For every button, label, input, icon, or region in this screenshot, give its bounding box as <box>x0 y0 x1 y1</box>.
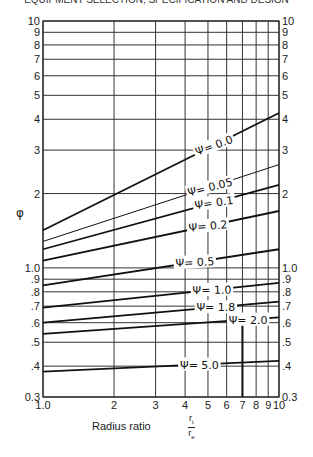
y-tick-label-left: 4 <box>34 113 40 125</box>
y-tick-label-right: .6 <box>282 317 291 329</box>
y-tick-label-right: 8 <box>282 39 288 51</box>
curve-label-text: Ψ= 1.0 <box>192 284 231 298</box>
curve-label: Ψ= 2.0 <box>227 313 269 327</box>
y-tick-label-right: .5 <box>282 336 291 348</box>
x-tick-label: 3 <box>153 399 159 411</box>
curve-label-text: Ψ= 0.2 <box>188 218 228 234</box>
y-tick-label-left: 3 <box>34 144 40 156</box>
x-tick-label: 4 <box>182 399 188 411</box>
fraction-denominator: re <box>188 428 195 442</box>
y-tick-label-right: 4 <box>282 113 288 125</box>
curve-label: Ψ= 1.0 <box>191 283 234 298</box>
y-tick-label-right: 7 <box>282 53 288 65</box>
plot-frame <box>43 21 279 397</box>
curve-label: Ψ= 1.8 <box>195 300 237 314</box>
y-tick-label-left: 2 <box>34 188 40 200</box>
y-tick-label-left: .9 <box>31 273 40 285</box>
y-tick-label-left: .4 <box>31 360 40 372</box>
curve-label: Ψ= 5.0 <box>178 358 220 372</box>
x-tick-label: 5 <box>205 399 211 411</box>
curve-psi-0.5 <box>43 249 279 285</box>
x-tick-label: 6 <box>224 399 230 411</box>
y-tick-label-left: .7 <box>31 300 40 312</box>
y-tick-label-right: 2 <box>282 188 288 200</box>
y-tick-label-left: 8 <box>34 39 40 51</box>
y-tick-label-right: .4 <box>282 360 291 372</box>
y-tick-label-right: 6 <box>282 70 288 82</box>
x-tick-label: 2 <box>111 399 117 411</box>
phi-vs-radius-ratio-chart: 1.02345678910101099887766554433221.01.0.… <box>0 0 313 457</box>
y-tick-label-left: 0.3 <box>25 391 40 403</box>
y-tick-label-left: 6 <box>34 70 40 82</box>
curve-psi-0.2 <box>43 211 279 261</box>
y-tick-label-right: 9 <box>282 26 288 38</box>
fraction-numerator: rt <box>188 413 195 428</box>
y-tick-label-left: 7 <box>34 53 40 65</box>
curve-label-text: Ψ= 5.0 <box>180 359 219 372</box>
y-tick-label-right: 0.3 <box>282 391 297 403</box>
curve-label-text: Ψ= 2.0 <box>229 314 268 327</box>
y-tick-label-left: .6 <box>31 317 40 329</box>
curve-label: Ψ= 0.5 <box>173 254 216 270</box>
curve-label: Ψ= 0.2 <box>186 217 229 235</box>
x-axis-label: Radius ratio <box>92 420 151 432</box>
curve-label-text: Ψ= 1.8 <box>196 301 235 314</box>
y-tick-label-left: 5 <box>34 89 40 101</box>
y-tick-label-left: 9 <box>34 26 40 38</box>
curve-psi-0.05 <box>43 165 279 242</box>
curve-psi-0.1 <box>43 185 279 249</box>
y-tick-label-right: .9 <box>282 273 291 285</box>
curve-label-text: Ψ= 0.5 <box>175 255 215 270</box>
curve-label: Ψ= 0.0 <box>192 132 237 160</box>
curve-label-text: Ψ= 0.0 <box>194 133 235 159</box>
y-tick-label-right: 1.0 <box>282 262 297 274</box>
curve-psi-0.0 <box>43 113 279 230</box>
y-tick-label-left: .8 <box>31 286 40 298</box>
y-tick-label-left: 10 <box>28 15 40 27</box>
x-tick-label: 9 <box>265 399 271 411</box>
y-tick-label-right: 10 <box>282 15 294 27</box>
y-tick-label-right: 3 <box>282 144 288 156</box>
y-axis-label: φ <box>16 206 24 220</box>
y-tick-label-left: .5 <box>31 336 40 348</box>
x-axis-fraction: rt re <box>188 413 195 442</box>
y-tick-label-left: 1.0 <box>25 262 40 274</box>
x-tick-label: 7 <box>239 399 245 411</box>
y-tick-label-right: 5 <box>282 89 288 101</box>
y-tick-label-right: .7 <box>282 300 291 312</box>
x-tick-label: 8 <box>253 399 259 411</box>
y-tick-label-right: .8 <box>282 286 291 298</box>
